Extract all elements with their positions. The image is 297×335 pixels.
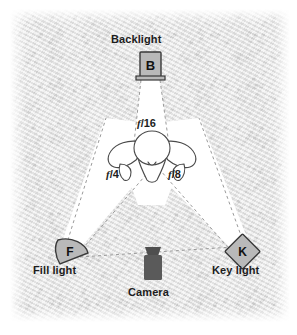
fill-light-aperture-label: f/4 <box>106 168 119 180</box>
fill-light-label: Fill light <box>33 264 76 276</box>
f-value: /4 <box>110 168 119 180</box>
diagram-artwork: B F K <box>0 0 297 335</box>
camera-label: Camera <box>128 286 169 298</box>
camera-lens-hood <box>145 247 161 256</box>
backlight-fixture[interactable]: B <box>136 52 165 80</box>
f-value: /8 <box>172 168 181 180</box>
backlight-badge-letter: B <box>146 58 155 73</box>
camera-icon[interactable] <box>144 247 162 280</box>
lighting-diagram: B F K Backlight Fill light Key light Cam… <box>0 0 297 335</box>
key-light-aperture-label: f/8 <box>168 168 181 180</box>
key-light-badge-letter: K <box>238 245 247 259</box>
camera-body[interactable] <box>144 255 162 280</box>
subject-head <box>134 131 170 165</box>
f-value: /16 <box>141 117 156 129</box>
backlight-base <box>136 76 165 80</box>
fill-light-badge-letter: F <box>66 245 73 259</box>
backlight-aperture-label: f/16 <box>137 117 156 129</box>
key-light-label: Key light <box>212 264 259 276</box>
backlight-label: Backlight <box>111 33 161 45</box>
